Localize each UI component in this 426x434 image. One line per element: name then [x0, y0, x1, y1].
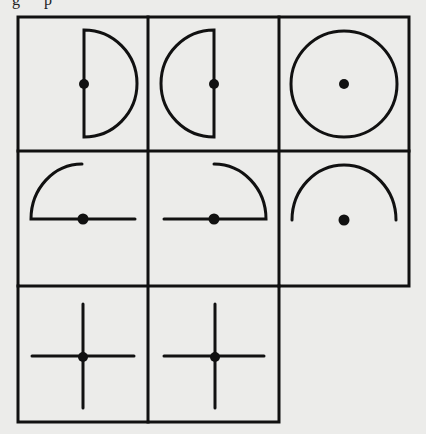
quarter-arc-left-with-line-shape: [31, 164, 135, 219]
puzzle-grid-figure: [0, 0, 426, 434]
dot-marker: [78, 214, 89, 225]
dot-marker: [210, 352, 220, 362]
dot-marker: [209, 79, 219, 89]
dot-marker: [78, 352, 88, 362]
half-circle-right-shape: [84, 30, 137, 137]
dot-marker: [339, 215, 350, 226]
half-circle-left-shape: [161, 30, 214, 137]
cell-r1c2: [161, 30, 219, 137]
upper-half-arc-shape: [292, 165, 396, 220]
cell-r2c1: [31, 164, 135, 225]
quarter-arc-right-with-line-shape: [164, 164, 266, 219]
dot-marker: [339, 79, 349, 89]
cell-r2c2: [164, 164, 266, 225]
cell-r3c2: [164, 304, 264, 408]
cell-r1c3: [291, 31, 397, 137]
cell-r3c1: [32, 304, 134, 408]
cell-r2c3: [292, 165, 396, 226]
cell-r1c1: [79, 30, 137, 137]
dot-marker: [209, 214, 220, 225]
dot-marker: [79, 79, 89, 89]
